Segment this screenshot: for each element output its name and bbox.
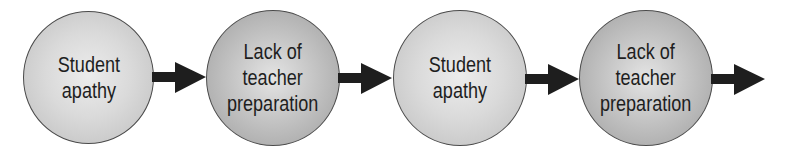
arrow-right-icon [525, 62, 581, 98]
node-label-line: apathy [429, 78, 491, 104]
node-lack-of-teacher-preparation-2: Lack of teacher preparation [579, 10, 713, 146]
node-label-line: Lack of [227, 39, 318, 65]
arrow-right-icon [338, 61, 394, 97]
node-label-line: Student [429, 52, 491, 78]
node-label: Student apathy [57, 52, 119, 104]
node-label-line: apathy [57, 78, 119, 104]
node-label-line: Student [57, 52, 119, 78]
arrow-right-icon [711, 62, 767, 98]
node-label-line: teacher [227, 65, 318, 91]
node-label-line: Lack of [600, 39, 691, 65]
node-student-apathy-1: Student apathy [23, 11, 154, 144]
node-label: Student apathy [429, 52, 491, 104]
node-student-apathy-2: Student apathy [393, 10, 527, 146]
node-label: Lack of teacher preparation [227, 39, 318, 117]
arrow-right-icon [152, 60, 208, 96]
node-label-line: preparation [600, 91, 691, 117]
node-label-line: teacher [600, 65, 691, 91]
node-lack-of-teacher-preparation-1: Lack of teacher preparation [206, 10, 340, 146]
node-label-line: preparation [227, 91, 318, 117]
node-label: Lack of teacher preparation [600, 39, 691, 117]
